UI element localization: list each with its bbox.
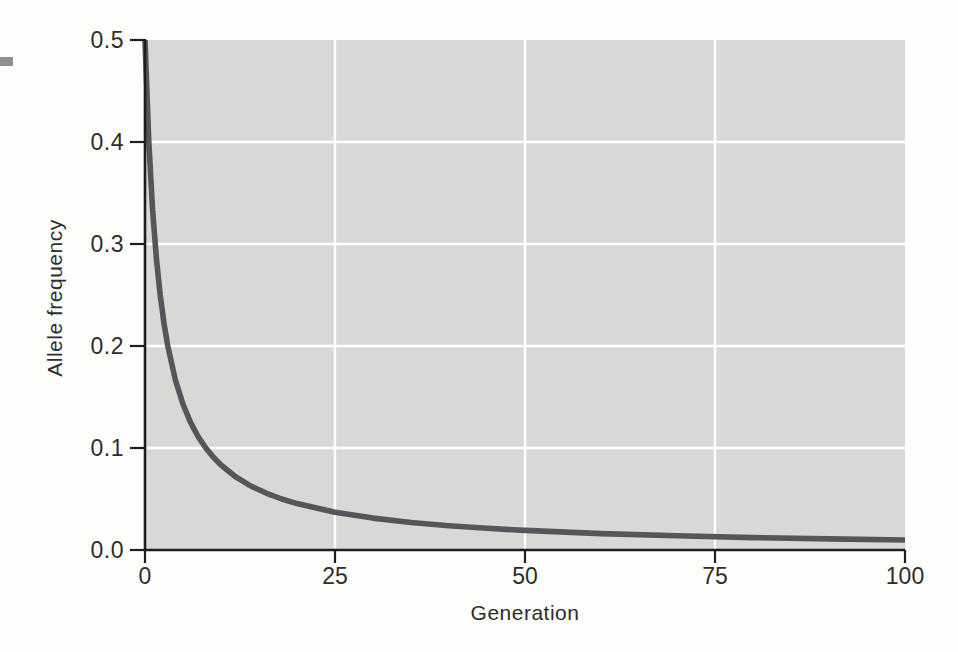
- allele-frequency-figure: 0.5 0.4 0.3 0.2 0.1 0.0 0 25 50 75 100 G…: [0, 0, 958, 652]
- y-axis-title: Allele frequency: [43, 198, 69, 398]
- chart-canvas: [0, 0, 958, 652]
- y-tick-label-0.4: 0.4: [64, 130, 124, 154]
- y-tick-label-0.1: 0.1: [64, 436, 124, 460]
- y-tick-label-0.3: 0.3: [64, 232, 124, 256]
- x-tick-label-25: 25: [295, 564, 375, 588]
- y-tick-label-0.2: 0.2: [64, 334, 124, 358]
- x-axis-title: Generation: [405, 601, 645, 625]
- y-tick-label-0.0: 0.0: [64, 538, 124, 562]
- y-tick-label-0.5: 0.5: [64, 28, 124, 52]
- x-tick-label-100: 100: [865, 564, 945, 588]
- x-tick-label-50: 50: [485, 564, 565, 588]
- x-tick-label-75: 75: [675, 564, 755, 588]
- x-tick-label-0: 0: [105, 564, 185, 588]
